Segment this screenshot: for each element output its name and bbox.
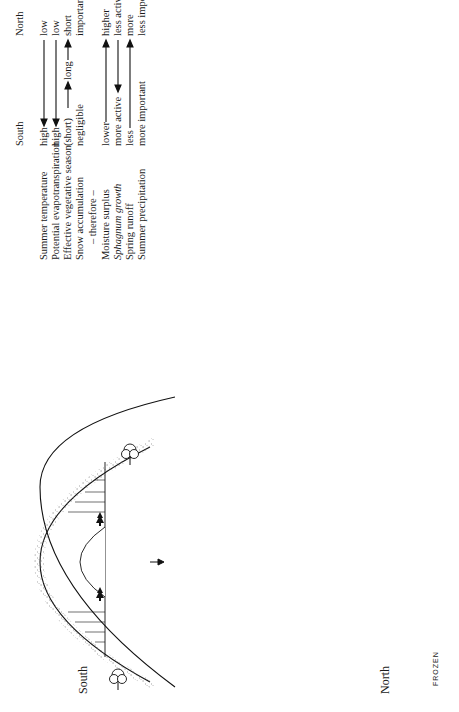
north-value: low <box>38 20 50 36</box>
north-value: low <box>50 20 62 36</box>
stage-arrows <box>150 559 164 565</box>
factor-label: Potential evapotranspiration <box>50 142 62 260</box>
south-value: less <box>124 130 136 146</box>
north-value: less active <box>112 0 124 36</box>
therefore-label: – therefore – <box>87 190 99 244</box>
peatland-profile-diagram <box>0 0 459 712</box>
factor-labels: Summer temperature Potential evapotransp… <box>38 150 158 260</box>
north-value: important <box>74 0 86 36</box>
frozen-label: FROZEN <box>430 651 442 686</box>
south-value: (short) <box>62 118 74 146</box>
south-value: negligible <box>74 104 86 146</box>
north-region-label: North <box>378 666 393 694</box>
factor-label: Moisture surplus <box>100 189 112 260</box>
factor-label: Effective vegetative season <box>62 145 74 260</box>
profile-1-pond-basin <box>34 437 154 690</box>
north-value: higher <box>100 9 112 36</box>
south-value: high <box>38 127 50 146</box>
south-value: more important <box>136 81 148 146</box>
south-value: more active <box>112 97 124 146</box>
factor-label: Spring runoff <box>124 203 136 260</box>
north-value: short <box>62 15 74 36</box>
south-value: high <box>50 127 62 146</box>
rotated-figure: South North Summer temperature Potential… <box>0 0 459 712</box>
north-header: North <box>14 12 26 37</box>
south-value: lower <box>100 122 112 146</box>
south-header: South <box>14 121 26 146</box>
profile-2-infilled-basin <box>40 397 175 687</box>
north-value: less important <box>136 0 148 36</box>
south-region-label: South <box>76 666 91 694</box>
north-value: more <box>124 14 136 36</box>
factor-label: Snow accumulation <box>74 177 86 260</box>
factor-label: Summer temperature <box>38 172 50 260</box>
middle-value-long: long <box>62 61 74 80</box>
factor-label: Sphagnum growth <box>112 184 124 260</box>
factor-label: Summer precipitation <box>136 169 148 260</box>
